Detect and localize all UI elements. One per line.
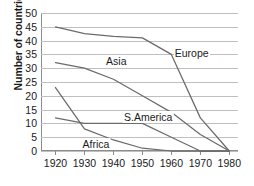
series-line-europe — [55, 27, 229, 151]
x-axis-tick-label: 1930 — [73, 157, 96, 169]
series-label-s-america: S.America — [123, 111, 173, 123]
y-axis-tick-label: 40 — [17, 35, 37, 47]
x-axis-tick-label: 1970 — [189, 157, 212, 169]
x-axis-tick-label: 1950 — [131, 157, 154, 169]
x-axis-tick-mark — [142, 151, 143, 155]
y-axis-tick-label: 25 — [17, 76, 37, 88]
x-axis-tick-label: 1960 — [160, 157, 183, 169]
x-axis-tick-mark — [55, 151, 56, 155]
y-axis-tick-label: 5 — [17, 131, 37, 143]
series-lines — [41, 13, 238, 151]
y-axis-tick-label: 45 — [17, 21, 37, 33]
y-axis-tick-label: 35 — [17, 48, 37, 60]
y-axis-tick-label: 0 — [17, 145, 37, 157]
x-axis-tick-label: 1920 — [44, 157, 67, 169]
y-axis-tick-label: 30 — [17, 62, 37, 74]
x-axis-tick-label: 1980 — [218, 157, 241, 169]
plot-area: 0510152025303540455019201930194019501960… — [41, 13, 238, 151]
y-axis-tick-label: 20 — [17, 90, 37, 102]
y-axis-tick-label: 10 — [17, 117, 37, 129]
x-axis-tick-label: 1940 — [102, 157, 125, 169]
x-axis-tick-mark — [113, 151, 114, 155]
series-label-africa: Africa — [82, 138, 111, 150]
x-axis-tick-mark — [84, 151, 85, 155]
series-label-europe: Europe — [174, 47, 210, 59]
series-label-asia: Asia — [105, 55, 127, 67]
line-chart: Number of countries 05101520253035404550… — [0, 0, 254, 186]
y-axis-tick-label: 50 — [17, 7, 37, 19]
y-axis-tick-label: 15 — [17, 104, 37, 116]
